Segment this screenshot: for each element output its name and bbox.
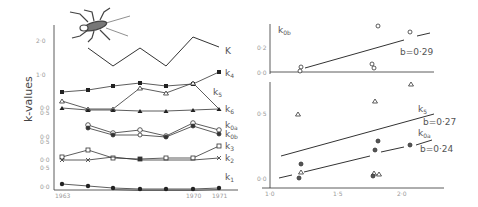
k0b-markers xyxy=(86,124,221,139)
right-bottom-chart xyxy=(262,82,444,188)
r-x-tick-1-0: 1·0 xyxy=(265,190,275,197)
x-tick-start: 1963 xyxy=(55,192,70,199)
r-top-tick-0-2: 0·2 xyxy=(257,44,267,51)
left-y-ticks: 2·0 1·0 0·0 0·5 0·0 0·5 0·0 0·5 0·0 1963… xyxy=(36,37,227,199)
tick-0-0c: 0·0 xyxy=(40,156,50,163)
r-k5-slope-annotation: b=0·27 xyxy=(423,117,456,127)
figure: 2·0 1·0 0·0 0·5 0·0 0·5 0·0 0·5 0·0 1963… xyxy=(0,0,478,207)
x-tick-end: 1971 xyxy=(212,192,227,199)
r-label-k0a: k0a xyxy=(418,128,431,139)
r-bot-tick-0-0: 0·0 xyxy=(257,175,267,182)
tick-0-5b: 0·5 xyxy=(40,138,50,145)
series-K xyxy=(88,37,219,66)
r-top-slope-annotation: b=0·29 xyxy=(400,47,434,57)
label-k1: k1 xyxy=(225,172,234,183)
left-chart xyxy=(54,8,238,191)
r-top-series-label: k0b xyxy=(278,25,291,36)
label-k2: k2 xyxy=(225,153,234,164)
r-k0a-slope-annotation: b=0·24 xyxy=(420,144,454,154)
r-x-tick-2-0: 2·0 xyxy=(397,190,407,197)
y-axis-label: k-values xyxy=(22,76,35,122)
tick-1-0: 1·0 xyxy=(36,71,46,78)
label-k3: k3 xyxy=(225,141,234,152)
r-top-tick-0-0: 0·0 xyxy=(257,69,267,76)
tick-2-0: 2·0 xyxy=(36,37,46,44)
label-k4: k4 xyxy=(225,68,234,79)
regression-k5 xyxy=(281,114,434,156)
left-series-labels: K k4 k5 k6 k0a k0b k3 k2 k1 xyxy=(213,46,238,183)
r-label-k5: k5 xyxy=(418,104,427,115)
tick-0-0d: 0·0 xyxy=(40,183,50,190)
label-K: K xyxy=(225,46,232,56)
k3-markers xyxy=(60,144,221,161)
label-k6: k6 xyxy=(225,104,234,115)
x-tick-mid: 1970 xyxy=(186,192,201,199)
r-x-tick-1-5: 1·5 xyxy=(333,190,343,197)
label-k5: k5 xyxy=(213,87,222,98)
regression-k0b xyxy=(305,40,404,68)
insect-icon xyxy=(70,8,130,42)
tick-0-5a: 0·5 xyxy=(40,109,50,116)
k5-scatter-points xyxy=(296,82,414,176)
series-k0a xyxy=(88,123,219,136)
r-bot-tick-0-5: 0·5 xyxy=(257,110,267,117)
tick-0-5c: 0·5 xyxy=(40,164,50,171)
